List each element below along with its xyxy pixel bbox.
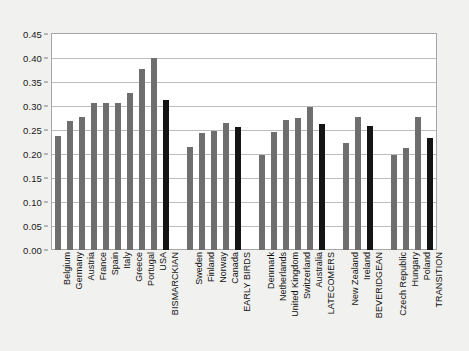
bar-aggregate [427,138,433,250]
x-axis-tick-label: France [98,252,108,280]
x-axis-tick-label: New Zealand [350,252,360,306]
bar-chart-figure: 0.450.400.350.300.250.200.150.100.050.00… [0,0,469,351]
y-axis-tick-label: 0.15 [23,173,42,184]
x-axis-tick-label: Greece [134,252,144,282]
y-axis-tick-label: 0.45 [23,29,42,40]
y-axis-tick-label: 0.35 [23,77,42,88]
y-axis-tick-label: 0.10 [23,197,42,208]
bar [115,103,121,250]
y-axis-tick-label: 0.25 [23,125,42,136]
bar [259,155,265,250]
y-axis-tick-mark [44,106,48,107]
y-axis-tick-label: 0.05 [23,221,42,232]
x-axis-tick-label: Finland [206,252,216,282]
y-axis-tick-label: 0.40 [23,53,42,64]
x-axis-tick-label: Sweden [194,252,204,285]
y-axis-tick-mark [44,202,48,203]
x-axis-tick-label: BEVERIDGEAN [374,252,384,318]
bar [103,103,109,250]
y-axis-tick-mark [44,82,48,83]
x-axis-tick-label: Germany [74,252,84,289]
y-axis-tick-mark [44,34,48,35]
y-axis-tick-mark [44,130,48,131]
x-axis-tick-label: LATECOMERS [326,252,336,314]
bar-aggregate [235,127,241,250]
bar [139,69,145,250]
bar-aggregate [367,126,373,250]
x-axis-tick-label: TRANSITION [434,252,444,308]
y-axis-tick-mark [44,226,48,227]
bar [283,120,289,250]
y-axis-tick-label: 0.20 [23,149,42,160]
bar [79,117,85,250]
bar-aggregate [163,100,169,250]
bar [151,58,157,250]
bar [271,132,277,250]
y-axis-tick-mark [44,154,48,155]
x-axis-tick-label: BISMARCKIAN [170,252,180,315]
x-axis-tick-label: Poland [422,252,432,280]
x-axis-tick-label: United Kingdom [290,252,300,317]
bar-aggregate [319,124,325,250]
x-axis-tick-label: EARLY BIRDS [242,252,252,312]
y-axis-tick-mark [44,178,48,179]
x-axis-tick-label: Italy [122,252,132,269]
x-axis-tick-label: Hungary [410,252,420,286]
bar [211,131,217,250]
x-axis-tick-label: Canada [230,252,240,284]
y-axis-tick-mark [44,250,48,251]
x-axis-tick-label: Netherlands [278,252,288,301]
x-axis-tick-label: Norway [218,252,228,283]
bar [127,93,133,250]
bar [187,147,193,250]
x-axis-tick-label: Denmark [266,252,276,289]
bar [391,155,397,250]
bar [343,143,349,250]
x-axis: BelgiumGermanyAustriaFranceSpainItalyGre… [52,252,436,351]
x-axis-tick-label: USA [158,252,168,271]
bars-layer [52,34,436,250]
x-axis-tick-label: Australia [314,252,324,287]
x-axis-tick-label: Czech Republic [398,252,408,316]
x-axis-tick-label: Spain [110,252,120,275]
bar [67,121,73,250]
bar [415,117,421,250]
bar [55,136,61,250]
bar [295,118,301,250]
bar [403,148,409,250]
x-axis-tick-label: Ireland [362,252,372,280]
bar [91,103,97,250]
bar [355,117,361,250]
y-axis-tick-label: 0.00 [23,245,42,256]
bar [223,123,229,250]
y-axis-tick-mark [44,58,48,59]
bar [199,133,205,250]
x-axis-tick-label: Belgium [62,252,72,285]
x-axis-tick-label: Portugal [146,252,156,286]
x-axis-tick-label: Austria [86,252,96,280]
bar [307,107,313,250]
y-axis: 0.450.400.350.300.250.200.150.100.050.00 [0,33,48,250]
x-axis-tick-label: Switzerland [302,252,312,299]
y-axis-tick-label: 0.30 [23,101,42,112]
